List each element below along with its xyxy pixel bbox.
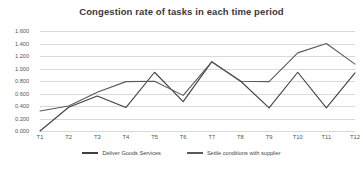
- x-axis-tick-label: T7: [200, 134, 224, 140]
- series-line: [40, 44, 355, 112]
- legend-item[interactable]: Deliver Goods Services: [82, 150, 160, 156]
- y-axis-tick-label: 1.200: [1, 53, 29, 59]
- x-axis-tick-label: T8: [228, 134, 252, 140]
- legend-item[interactable]: Settle conditions with supplier: [187, 150, 281, 156]
- x-axis-tick-label: T4: [114, 134, 138, 140]
- y-axis-tick-label: 1.600: [1, 28, 29, 34]
- x-axis-tick-label: T6: [171, 134, 195, 140]
- legend-line-swatch: [82, 152, 98, 154]
- x-axis-tick-label: T1: [28, 134, 52, 140]
- y-axis-tick-label: 1.000: [1, 66, 29, 72]
- x-axis-tick-label: T10: [286, 134, 310, 140]
- y-axis-tick-label: 0.000: [1, 128, 29, 134]
- y-axis-tick-label: 1.400: [1, 41, 29, 47]
- legend-label: Settle conditions with supplier: [207, 150, 281, 156]
- x-axis-tick-label: T12: [343, 134, 363, 140]
- legend-label: Deliver Goods Services: [102, 150, 160, 156]
- plot-area: 0.0000.2000.4000.6000.8001.0001.2001.400…: [40, 31, 355, 131]
- gridline: [40, 131, 355, 132]
- legend-line-swatch: [187, 152, 203, 154]
- x-axis-tick-label: T11: [314, 134, 338, 140]
- chart-legend: Deliver Goods ServicesSettle conditions …: [0, 150, 363, 156]
- series-line: [40, 62, 355, 131]
- series-lines-group: [40, 31, 355, 131]
- x-axis-tick-label: T3: [85, 134, 109, 140]
- y-axis-tick-label: 0.200: [1, 116, 29, 122]
- x-axis-tick-label: T2: [57, 134, 81, 140]
- y-axis-tick-label: 0.600: [1, 91, 29, 97]
- y-axis-tick-label: 0.800: [1, 78, 29, 84]
- chart-title: Congestion rate of tasks in each time pe…: [0, 6, 363, 17]
- x-axis-tick-label: T5: [143, 134, 167, 140]
- y-axis-tick-label: 0.400: [1, 103, 29, 109]
- chart-container: Congestion rate of tasks in each time pe…: [0, 0, 363, 169]
- x-axis-tick-label: T9: [257, 134, 281, 140]
